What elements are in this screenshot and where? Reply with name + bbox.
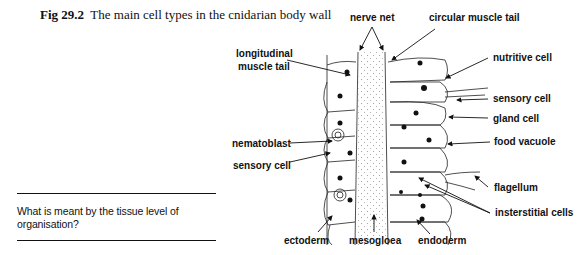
label-mesogloea: mesogloea xyxy=(349,235,401,247)
label-longitudinal-muscle-tail-2: muscle tail xyxy=(238,61,290,73)
label-circular-muscle-tail: circular muscle tail xyxy=(429,12,520,24)
nematoblast-capsules xyxy=(332,129,346,201)
label-sensory-cell-left: sensory cell xyxy=(233,160,291,172)
label-interstitial-cells: insterstitial cells xyxy=(495,207,573,219)
label-food-vacuole: food vacuole xyxy=(494,136,556,148)
label-flagellum: flagellum xyxy=(494,182,538,194)
label-gland-cell: gland cell xyxy=(493,113,539,125)
label-nutritive-cell: nutritive cell xyxy=(493,52,552,64)
label-longitudinal-muscle-tail-1: longitudinal xyxy=(236,48,293,60)
label-sensory-cell-right: sensory cell xyxy=(493,93,551,105)
label-nematoblast: nematoblast xyxy=(232,138,291,150)
label-nerve-net: nerve net xyxy=(350,12,394,24)
label-ectoderm: ectoderm xyxy=(284,235,329,247)
label-endoderm: endoderm xyxy=(418,235,466,247)
mesogloea-layer xyxy=(356,52,386,245)
